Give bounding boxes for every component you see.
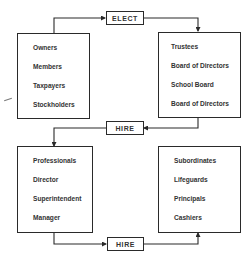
owners-box: Owners Members Taxpayers Stockholders <box>17 33 90 119</box>
owners-item: Taxpayers <box>33 82 65 89</box>
boards-box: Trustees Board of Directors School Board… <box>158 32 241 118</box>
executives-item: Superintendent <box>33 195 81 202</box>
hire-label-boards: HIRE <box>106 121 144 135</box>
staff-item: Cashiers <box>174 214 202 221</box>
staff-box: Subordinates Lifeguards Principals Cashi… <box>158 146 241 233</box>
executives-box: Professionals Director Superintendent Ma… <box>17 146 93 233</box>
boards-item: Trustees <box>171 43 198 50</box>
owners-item: Stockholders <box>33 101 75 108</box>
boards-item: Board of Directors <box>171 62 229 69</box>
hire-label-staff: HIRE <box>107 237 144 251</box>
boards-item: Board of Directors <box>171 100 229 107</box>
staff-item: Principals <box>174 195 206 202</box>
executives-item: Professionals <box>33 157 76 164</box>
owners-item: Owners <box>33 44 57 51</box>
staff-item: Lifeguards <box>174 176 208 183</box>
executives-item: Manager <box>33 214 60 221</box>
staff-item: Subordinates <box>174 157 216 164</box>
executives-item: Director <box>33 176 58 183</box>
elect-label: ELECT <box>106 11 144 25</box>
boards-item: School Board <box>171 81 214 88</box>
owners-item: Members <box>33 63 62 70</box>
